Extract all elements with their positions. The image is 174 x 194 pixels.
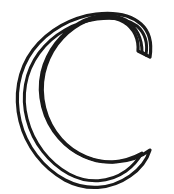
letter-c-glyph: Outlined capital letter C (0, 0, 174, 194)
canvas-background (0, 0, 174, 194)
image-canvas: Letter C Outline Outlined capital letter… (0, 0, 174, 194)
